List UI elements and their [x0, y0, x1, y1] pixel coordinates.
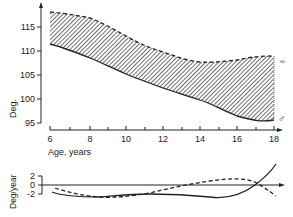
zero-line-arrow-icon	[279, 183, 285, 187]
x-axis-arrow-icon	[277, 128, 283, 132]
female-symbol: ♀	[277, 58, 288, 66]
xtick-14: 14	[195, 134, 205, 144]
ytick-100: 100	[20, 94, 35, 104]
xtick-16: 16	[232, 134, 242, 144]
x-axis	[50, 126, 280, 130]
growth-chart: 115 110 105 100 95 Deg. 6 8 10 12 14 16 …	[0, 0, 293, 217]
y-axis-arrow-icon	[39, 2, 43, 8]
top-y-label: Deg.	[8, 99, 18, 118]
x-axis-label: Age, years	[48, 147, 92, 157]
bottom-y-label: Deg/year	[8, 174, 18, 209]
male-symbol: ♂	[278, 113, 286, 124]
ytick-115: 115	[21, 22, 35, 32]
ytick-110: 110	[21, 46, 35, 56]
xtick-18: 18	[269, 134, 279, 144]
xtick-8: 8	[87, 134, 92, 144]
ytick-105: 105	[20, 70, 35, 80]
hatched-band	[50, 12, 274, 121]
xtick-10: 10	[121, 134, 131, 144]
ytick-neg2: -2	[27, 189, 35, 199]
top-y-axis	[37, 4, 41, 123]
ytick-95: 95	[25, 118, 35, 128]
male-rate-curve	[52, 164, 276, 198]
xtick-12: 12	[158, 134, 168, 144]
xtick-6: 6	[47, 134, 52, 144]
